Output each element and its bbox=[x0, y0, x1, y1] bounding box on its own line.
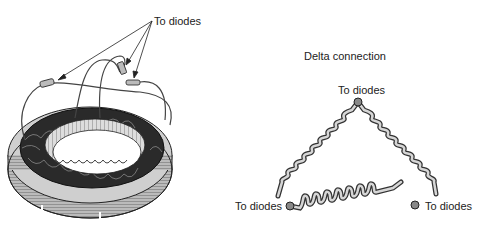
stator-illustration bbox=[8, 107, 172, 226]
delta-left-label: To diodes bbox=[235, 200, 282, 212]
delta-diagram bbox=[278, 98, 436, 210]
stator-pointer-arrows bbox=[58, 21, 152, 80]
delta-top-label: To diodes bbox=[338, 84, 385, 96]
stator-label-to-diodes: To diodes bbox=[154, 15, 201, 27]
terminal-right bbox=[411, 201, 419, 209]
terminal-top bbox=[354, 98, 362, 106]
delta-right-label: To diodes bbox=[425, 200, 472, 212]
delta-title: Delta connection bbox=[304, 50, 386, 62]
terminal-left bbox=[286, 202, 294, 210]
